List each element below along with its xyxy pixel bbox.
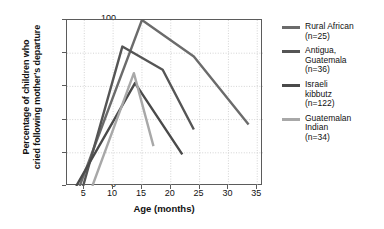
series-line (80, 20, 249, 186)
y-axis-title-line2: cried following mother's departure (32, 8, 43, 186)
x-tick-label: 30 (215, 188, 239, 198)
legend-label: Antigua,Guatemala(n=36) (305, 46, 347, 75)
x-tick-label: 5 (71, 188, 95, 198)
series-line (76, 83, 182, 186)
chart-root: Percentage of children who cried followi… (0, 0, 384, 229)
x-axis-title: Age (months) (66, 203, 262, 214)
x-tick-label: 15 (129, 188, 153, 198)
x-tick-label: 20 (158, 188, 182, 198)
legend-label: GuatemalanIndian(n=34) (305, 114, 351, 143)
legend-label-line2: (n=25) (305, 32, 354, 42)
y-axis-title: Percentage of children who cried followi… (21, 8, 43, 186)
legend-label: Israelikibbutz(n=122) (305, 80, 335, 109)
legend-label-line3: (n=122) (305, 99, 335, 109)
x-tick-mark (83, 185, 84, 189)
legend-item: Antigua,Guatemala(n=36) (282, 46, 384, 75)
data-lines (67, 20, 263, 186)
x-tick-mark (256, 185, 257, 189)
x-tick-mark (112, 185, 113, 189)
plot-area (66, 19, 262, 185)
legend-color-swatch (282, 50, 300, 53)
legend-color-swatch (282, 26, 300, 29)
legend-item: GuatemalanIndian(n=34) (282, 114, 384, 143)
x-tick-label: 35 (244, 188, 268, 198)
x-tick-mark (141, 185, 142, 189)
legend-item: Rural African(n=25) (282, 22, 384, 41)
y-tick-mark (62, 185, 66, 186)
x-tick-label: 10 (100, 188, 124, 198)
x-tick-label: 25 (187, 188, 211, 198)
x-tick-mark (170, 185, 171, 189)
legend-color-swatch (282, 118, 300, 121)
legend-color-swatch (282, 84, 300, 87)
legend-label-line3: (n=36) (305, 65, 347, 75)
x-tick-mark (227, 185, 228, 189)
legend-item: Israelikibbutz(n=122) (282, 80, 384, 109)
y-axis-title-line1: Percentage of children who (21, 8, 32, 186)
x-tick-mark (199, 185, 200, 189)
legend-label-line3: (n=34) (305, 133, 351, 143)
legend-label: Rural African(n=25) (305, 22, 354, 41)
chart-legend: Rural African(n=25)Antigua,Guatemala(n=3… (282, 22, 384, 148)
